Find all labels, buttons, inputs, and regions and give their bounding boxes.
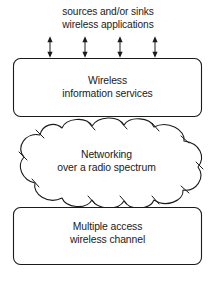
double-arrow-1 — [47, 36, 52, 58]
node-cloud-networking — [19, 118, 203, 208]
double-arrow-4 — [152, 36, 157, 58]
diagram-canvas: sources and/or sinks wireless applicatio… — [0, 0, 216, 286]
node-box-wireless-information-services — [14, 59, 202, 117]
diagram-vector-layer — [0, 0, 216, 286]
double-arrow-3 — [117, 36, 122, 58]
connector-arrows-group — [47, 36, 157, 58]
double-arrow-2 — [82, 36, 87, 58]
node-box-multiple-access-wireless-channel — [14, 208, 202, 265]
